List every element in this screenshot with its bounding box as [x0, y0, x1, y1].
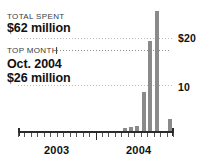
bar [148, 41, 152, 131]
x-axis-tick [160, 133, 161, 137]
x-axis-tick [50, 133, 51, 137]
x-axis-label-2004: 2004 [126, 144, 151, 156]
x-axis-tick [24, 133, 25, 137]
x-axis-tick [18, 133, 19, 137]
gridline-20 [18, 38, 173, 39]
x-axis-tick [44, 133, 45, 137]
x-axis-tick [102, 133, 103, 137]
plot-area [18, 6, 173, 131]
x-axis-tick [57, 133, 58, 137]
x-axis-tick [37, 133, 38, 137]
x-axis-label-2003: 2003 [44, 144, 69, 156]
x-axis-tick [128, 133, 129, 137]
x-axis-tick [31, 133, 32, 137]
x-axis-tick [108, 133, 109, 137]
y-axis-label-20: $20 [178, 32, 196, 44]
x-axis-tick [154, 133, 155, 137]
x-axis-tick [134, 133, 135, 137]
x-axis-tick [70, 133, 71, 137]
x-axis-tick [89, 133, 90, 137]
spending-bar-chart: TOTAL SPENT $62 million TOP MONTH Oct. 2… [0, 0, 208, 166]
x-axis-tick [173, 133, 174, 137]
x-axis-tick [141, 133, 142, 137]
x-axis-tick [76, 133, 77, 137]
y-axis-label-10: 10 [178, 81, 190, 93]
x-axis-tick [121, 133, 122, 137]
x-axis-tick [167, 133, 168, 137]
bar [155, 11, 159, 131]
bar [142, 92, 146, 131]
x-axis-tick [115, 133, 116, 137]
x-axis-tick-major [96, 133, 97, 140]
x-axis-tick [147, 133, 148, 137]
x-axis-tick [63, 133, 64, 137]
x-axis-tick [83, 133, 84, 137]
